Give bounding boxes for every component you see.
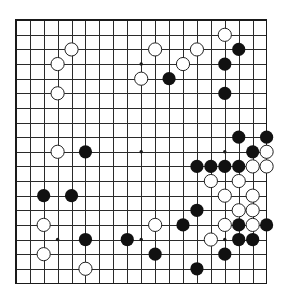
black-stone [121,233,134,246]
white-stone [149,218,162,231]
black-stone [162,72,175,85]
black-stone [65,189,78,202]
white-stone [51,87,64,100]
white-stone [260,160,273,173]
white-stone [79,262,92,275]
white-stone [204,233,217,246]
black-stone [260,131,273,144]
white-stone [176,57,189,70]
white-stone [218,218,231,231]
go-board[interactable] [0,0,288,300]
white-stone [218,189,231,202]
black-stone [190,160,203,173]
white-stone [37,248,50,261]
black-stone [190,262,203,275]
black-stone [260,218,273,231]
white-stone [51,57,64,70]
black-stone [232,131,245,144]
white-stone [190,43,203,56]
star-point [140,238,143,241]
star-point [140,62,143,65]
white-stone [149,43,162,56]
star-point [56,238,59,241]
black-stone [204,160,217,173]
black-stone [79,233,92,246]
white-stone [232,174,245,187]
star-point [223,150,226,153]
white-stone [246,160,259,173]
black-stone [37,189,50,202]
black-stone [218,87,231,100]
black-stone [218,160,231,173]
black-stone [218,57,231,70]
white-stone [246,189,259,202]
white-stone [51,145,64,158]
black-stone [246,233,259,246]
black-stone [176,218,189,231]
black-stone [246,145,259,158]
black-stone [232,43,245,56]
white-stone [65,43,78,56]
star-point [140,150,143,153]
black-stone [218,248,231,261]
white-stone [218,28,231,41]
white-stone [204,174,217,187]
white-stone [232,204,245,217]
go-board-canvas[interactable] [0,0,288,300]
white-stone [260,145,273,158]
white-stone [37,218,50,231]
black-stone [79,145,92,158]
white-stone [135,72,148,85]
black-stone [232,160,245,173]
black-stone [232,233,245,246]
black-stone [149,248,162,261]
star-point [223,238,226,241]
white-stone [246,204,259,217]
white-stone [246,218,259,231]
black-stone [190,204,203,217]
black-stone [232,218,245,231]
